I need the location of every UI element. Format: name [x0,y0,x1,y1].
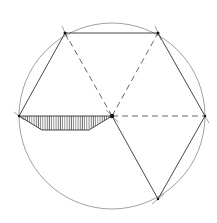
edge-topright-right [158,33,205,116]
hexagon-construction-figure [0,0,217,223]
point-bottom-right [157,198,159,200]
dashed-center-topleft [65,33,112,116]
dashed-center-topright [112,33,158,116]
point-left [18,115,20,117]
diagram-canvas [0,0,217,223]
edge-right-bottomright [158,116,205,199]
point-center [110,114,114,118]
edge-left-topleft [19,33,65,116]
point-right [204,115,206,117]
point-top-left [64,32,67,35]
dashed-construction-lines [65,33,205,116]
point-top-right [157,32,160,35]
edge-center-bottomright [112,116,158,199]
hatched-trapezoid [19,116,112,130]
